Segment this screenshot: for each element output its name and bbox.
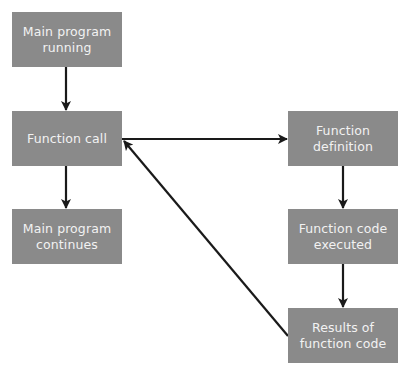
node-function-code-executed: Function code executed — [288, 209, 398, 264]
node-main-program-continues: Main program continues — [12, 209, 122, 264]
flowchart-diagram: Main program running Function call Main … — [0, 0, 410, 370]
node-results-of-function-code: Results of function code — [288, 308, 398, 363]
node-function-call: Function call — [12, 111, 122, 166]
node-main-program-running: Main program running — [12, 12, 122, 67]
node-function-definition: Function definition — [288, 111, 398, 166]
arrow-results-to-function-call — [124, 141, 288, 336]
